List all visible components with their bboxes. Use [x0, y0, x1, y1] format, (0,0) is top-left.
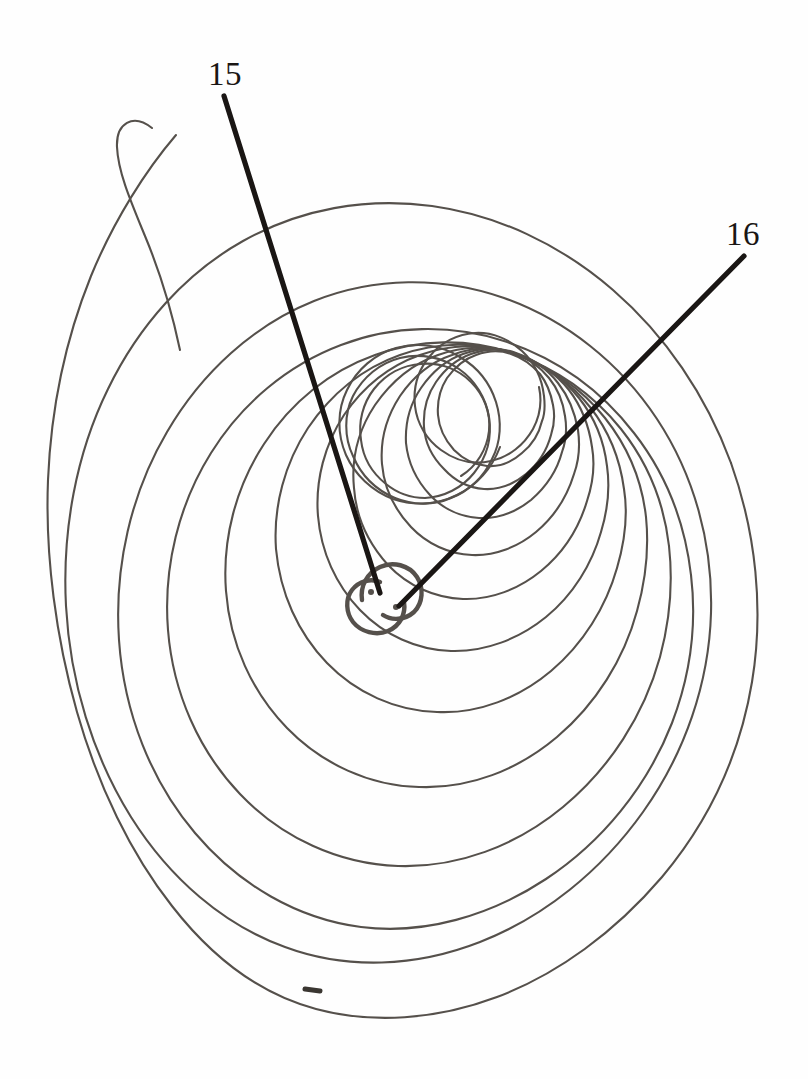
spiral-blemish-mark	[305, 989, 320, 991]
callout-label-15: 15	[208, 58, 242, 91]
spiral-figure	[0, 0, 808, 1079]
figure-page: 15 16	[0, 0, 808, 1079]
spiral-center-dot-left	[368, 589, 374, 595]
figure-background	[0, 0, 808, 1079]
callout-label-16: 16	[726, 218, 760, 251]
